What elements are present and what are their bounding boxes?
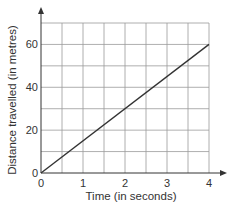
y-tick-label: 60 [26,38,38,50]
x-tick-label: 3 [164,177,170,189]
y-tick-label: 40 [26,81,38,93]
x-tick-label: 4 [206,177,212,189]
y-axis-label: Distance travelled (in metres) [6,25,18,175]
y-axis-arrow-icon [38,7,44,14]
y-tick-label: 20 [26,124,38,136]
x-tick-label: 2 [122,177,128,189]
axes [38,7,227,176]
grid [41,23,209,173]
x-tick-label: 0 [38,177,44,189]
x-tick-label: 1 [80,177,86,189]
y-tick-label: 0 [32,167,38,179]
chart: 012340204060 Time (in seconds) Distance … [0,0,237,211]
x-axis-label: Time (in seconds) [86,190,177,202]
x-axis-arrow-icon [220,170,227,176]
